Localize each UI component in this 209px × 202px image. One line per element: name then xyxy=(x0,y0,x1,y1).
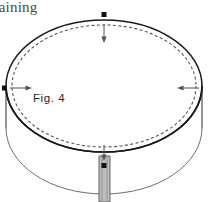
center-post xyxy=(99,156,110,202)
top-arrowhead xyxy=(101,37,106,44)
figure-canvas: naining xyxy=(0,0,209,202)
figure-number-label: Fig. 4 xyxy=(33,91,65,105)
technical-drawing xyxy=(0,0,209,202)
top-dimension-marker xyxy=(101,12,106,43)
